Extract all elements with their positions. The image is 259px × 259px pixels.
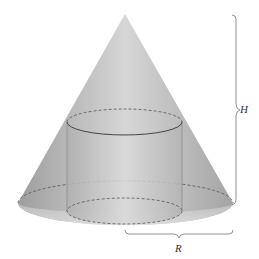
height-brace (232, 15, 240, 205)
height-label: H (240, 103, 248, 115)
diagram-canvas: H R (0, 0, 259, 259)
cone-cylinder-figure (0, 0, 259, 259)
radius-label: R (175, 242, 182, 254)
radius-brace (125, 230, 233, 238)
